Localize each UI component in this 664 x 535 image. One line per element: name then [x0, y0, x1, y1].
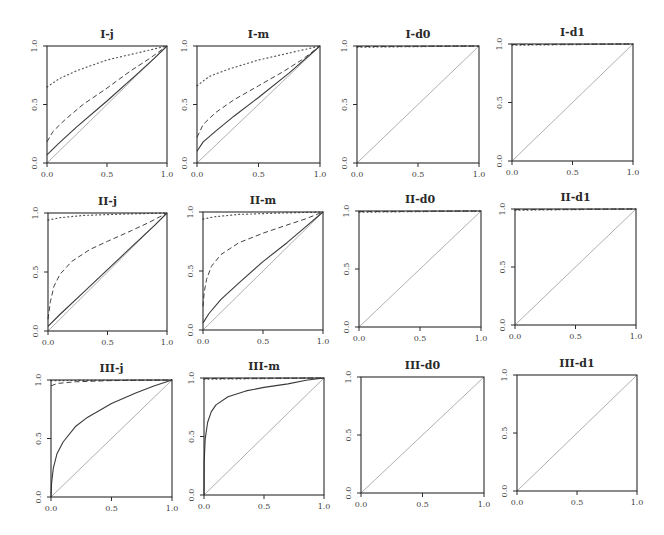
- y-axis: 0.00.51.0: [30, 40, 47, 170]
- y-axis: 0.00.51.0: [34, 374, 51, 504]
- series-diagonal-line: [359, 211, 481, 327]
- series-diagonal-line: [204, 378, 324, 495]
- x-axis: 0.00.51.0: [191, 163, 327, 179]
- x-tick-label: 0.5: [414, 334, 427, 343]
- x-tick-label: 0.5: [101, 338, 114, 347]
- panel-title: II-j: [98, 195, 117, 208]
- series-diagonal-line: [203, 212, 323, 330]
- x-tick-label: 0.0: [191, 170, 204, 179]
- panel-i-m: I-m0.00.51.00.00.51.0: [180, 28, 326, 179]
- y-tick-label: 0.0: [340, 157, 349, 170]
- x-tick-label: 0.0: [353, 334, 366, 343]
- series-dashed-line: [203, 212, 323, 306]
- x-tick-label: 0.0: [41, 170, 54, 179]
- y-axis: 0.00.51.0: [31, 207, 48, 338]
- y-tick-label: 0.0: [498, 319, 507, 332]
- x-tick-label: 1.0: [478, 500, 491, 509]
- x-tick-label: 0.0: [506, 168, 519, 177]
- y-tick-label: 0.5: [187, 430, 196, 443]
- panel-title: I-m: [248, 28, 270, 41]
- y-axis: 0.00.51.0: [342, 205, 359, 334]
- y-tick-label: 0.5: [344, 429, 353, 442]
- x-axis: 0.00.51.0: [506, 161, 640, 177]
- series-solid-line: [203, 212, 323, 323]
- x-axis: 0.00.51.0: [353, 327, 488, 343]
- series-solid-line: [197, 46, 320, 151]
- panel-title: II-d1: [560, 191, 590, 204]
- series-solid-line: [47, 46, 167, 155]
- y-tick-label: 0.0: [186, 324, 195, 337]
- x-tick-label: 0.5: [571, 498, 584, 507]
- series-diagonal-line: [517, 375, 637, 491]
- panel-ii-m: II-m0.00.51.00.00.51.0: [186, 194, 329, 346]
- x-tick-label: 1.0: [631, 498, 644, 507]
- x-tick-label: 0.0: [198, 502, 211, 511]
- series-diagonal-line: [361, 377, 484, 493]
- panel-title: III-d1: [559, 357, 594, 370]
- y-tick-label: 1.0: [495, 38, 504, 51]
- x-tick-label: 1.0: [314, 170, 327, 179]
- panel-iii-d1: III-d10.00.51.00.00.51.0: [500, 357, 643, 507]
- x-tick-label: 0.5: [252, 170, 265, 179]
- x-axis: 0.00.51.0: [42, 331, 174, 347]
- x-axis: 0.00.51.0: [45, 497, 179, 513]
- x-axis: 0.00.51.0: [351, 163, 486, 179]
- y-tick-label: 0.0: [180, 157, 189, 170]
- x-tick-label: 1.0: [166, 504, 179, 513]
- series-diagonal-line: [512, 44, 633, 161]
- y-tick-label: 1.0: [30, 40, 39, 53]
- y-tick-label: 0.0: [342, 321, 351, 334]
- series-dotted-line: [48, 213, 167, 220]
- y-tick-label: 1.0: [180, 40, 189, 53]
- x-tick-label: 1.0: [475, 334, 488, 343]
- series-dashed-line: [197, 46, 320, 137]
- x-tick-label: 1.0: [473, 170, 486, 179]
- panel-title: II-m: [250, 194, 277, 207]
- x-tick-label: 0.5: [412, 170, 425, 179]
- y-tick-label: 0.5: [186, 265, 195, 278]
- panel-i-j: I-j0.00.51.00.00.51.0: [30, 28, 173, 179]
- y-tick-label: 0.5: [495, 96, 504, 109]
- series-dotted-line: [47, 46, 167, 87]
- panel-iii-j: III-j0.00.51.00.00.51.0: [34, 362, 178, 513]
- x-tick-label: 0.5: [416, 500, 429, 509]
- x-tick-label: 0.0: [351, 170, 364, 179]
- y-tick-label: 1.0: [187, 372, 196, 385]
- y-axis: 0.00.51.0: [187, 372, 204, 502]
- y-tick-label: 1.0: [500, 369, 509, 382]
- x-axis: 0.00.51.0: [509, 325, 643, 341]
- y-tick-label: 0.0: [500, 485, 509, 498]
- roc-curve-figure: I-j0.00.51.00.00.51.0I-m0.00.51.00.00.51…: [0, 0, 664, 535]
- y-tick-label: 0.5: [180, 98, 189, 111]
- x-tick-label: 1.0: [317, 337, 330, 346]
- y-tick-label: 0.5: [30, 98, 39, 111]
- panel-title: III-m: [248, 360, 280, 373]
- x-tick-label: 0.5: [257, 337, 270, 346]
- y-axis: 0.00.51.0: [340, 40, 357, 170]
- panel-title: I-d1: [560, 26, 585, 39]
- series-solid-line: [48, 213, 167, 326]
- series-dashed-line: [47, 46, 167, 142]
- x-tick-label: 1.0: [161, 338, 174, 347]
- y-tick-label: 1.0: [342, 205, 351, 218]
- panel-title: II-d0: [405, 193, 436, 206]
- x-tick-label: 1.0: [627, 168, 640, 177]
- x-axis: 0.00.51.0: [355, 493, 491, 509]
- x-tick-label: 0.0: [45, 504, 58, 513]
- panel-iii-d0: III-d00.00.51.00.00.51.0: [344, 359, 490, 509]
- x-tick-label: 0.0: [42, 338, 55, 347]
- y-tick-label: 0.0: [495, 155, 504, 168]
- x-tick-label: 0.0: [355, 500, 368, 509]
- y-tick-label: 1.0: [498, 203, 507, 216]
- y-tick-label: 0.0: [30, 157, 39, 170]
- panel-ii-d1: II-d10.00.51.00.00.51.0: [498, 191, 642, 341]
- x-tick-label: 0.0: [197, 337, 210, 346]
- x-tick-label: 0.5: [258, 502, 271, 511]
- series-dotted-line: [203, 212, 323, 219]
- series-diagonal-line: [51, 380, 172, 497]
- y-tick-label: 1.0: [344, 371, 353, 384]
- x-tick-label: 1.0: [161, 170, 174, 179]
- y-axis: 0.00.51.0: [498, 203, 515, 332]
- series-dotted-line: [197, 46, 320, 86]
- y-tick-label: 1.0: [31, 207, 40, 220]
